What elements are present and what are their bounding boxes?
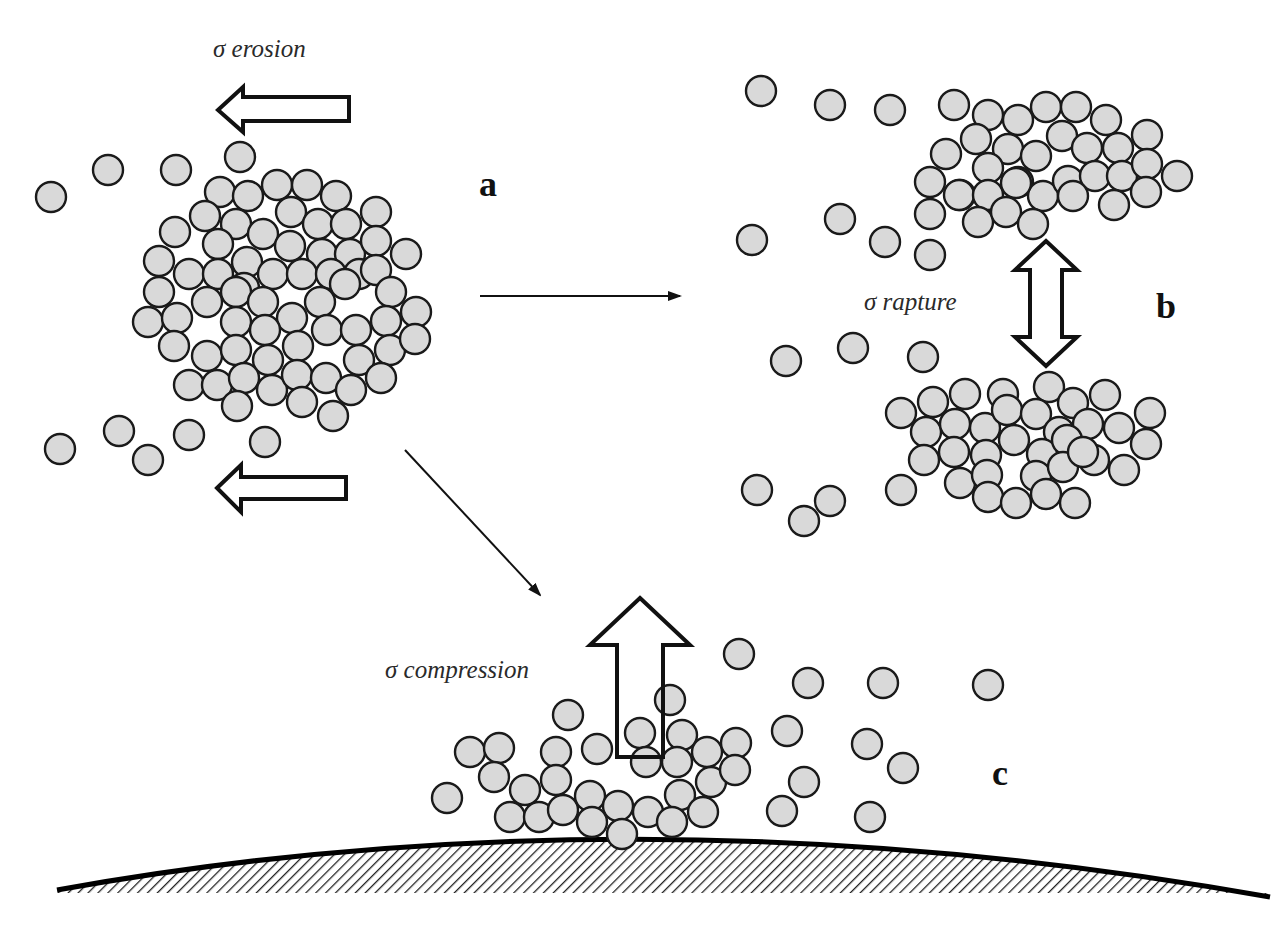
particle [945,468,975,498]
particle [915,167,945,197]
particle [133,445,163,475]
ground-surface [57,839,1270,897]
particle [657,807,687,837]
particle [931,139,961,169]
transition-arrows [405,296,680,595]
erosion-arrow-upper-icon [218,87,349,132]
particles-free-b-bottom [742,333,938,536]
particle [276,197,306,227]
particle [361,226,391,256]
particle [908,342,938,372]
particle [1103,133,1133,163]
particle [1072,133,1102,163]
particles-cluster-a [133,170,431,431]
particle [973,482,1003,512]
particle [789,767,819,797]
particle [479,762,509,792]
particle [631,747,661,777]
erosion-label: σ erosion [213,35,306,62]
particle [1031,92,1061,122]
particle [455,737,485,767]
particle [133,307,163,337]
particle [174,420,204,450]
particle [248,287,278,317]
particle [815,90,845,120]
particle [915,240,945,270]
particle [277,303,307,333]
particle [221,335,251,365]
particle [742,475,772,505]
breakage-mechanisms-diagram: σ erosion σ rapture σ compression a b c [0,0,1287,935]
particle [192,341,222,371]
particle [1131,429,1161,459]
particle [911,417,941,447]
particle [991,197,1021,227]
particle [36,182,66,212]
particle [1001,488,1031,518]
particle [939,90,969,120]
particle [1091,105,1121,135]
particle [815,486,845,516]
particle [1090,380,1120,410]
particle [1061,92,1091,122]
particles-free-b-top [737,76,945,270]
particle [1135,398,1165,428]
particle [603,791,633,821]
particle [192,287,222,317]
particle [331,209,361,239]
particle [93,155,123,185]
particle [724,639,754,669]
particle [1132,149,1162,179]
particle [495,802,525,832]
particle [870,227,900,257]
particle [330,269,360,299]
particle [250,427,280,457]
particle [852,729,882,759]
panel-label-c: c [992,753,1008,793]
particle [275,231,305,261]
particle [825,204,855,234]
particle [838,333,868,363]
particle [287,387,317,417]
particle [391,239,421,269]
particle [341,315,371,345]
particle [366,363,396,393]
particle [944,180,974,210]
particle [915,199,945,229]
particle [336,375,366,405]
particle [258,259,288,289]
particle [292,170,322,200]
particle [582,734,612,764]
particle [203,229,233,259]
particle [371,306,401,336]
particle [160,217,190,247]
particle [1018,209,1048,239]
particle [541,765,571,795]
particle [1109,455,1139,485]
particle [625,718,655,748]
particle [662,747,692,777]
particle [144,246,174,276]
particle [250,315,280,345]
particle [174,370,204,400]
particle [655,685,685,715]
particle [939,437,969,467]
particle [973,153,1003,183]
particle [688,797,718,827]
particle [720,755,750,785]
particle [287,259,317,289]
particle [548,795,578,825]
particle [772,716,802,746]
rapture-arrow-icon [1015,241,1077,366]
rapture-label: σ rapture [864,288,957,315]
particle [950,379,980,409]
particle [961,124,991,154]
particle [553,700,583,730]
particle [1001,168,1031,198]
particles-cluster-b-top [915,90,1192,239]
particles [36,76,1192,849]
compression-label: σ compression [385,656,529,683]
particles-free-c [767,668,1003,832]
particle [721,728,751,758]
particle [312,315,342,345]
